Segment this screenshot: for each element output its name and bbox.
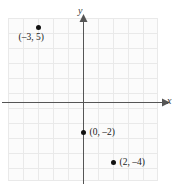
coordinate-plane-figure: y x (–3, 5) (0, –2) (2, –4) xyxy=(0,0,178,191)
x-axis-label: x xyxy=(167,96,171,106)
axes xyxy=(0,0,178,191)
y-axis-label: y xyxy=(78,6,82,16)
